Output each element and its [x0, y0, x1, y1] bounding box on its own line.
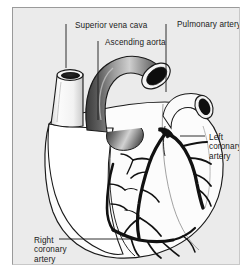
anatomy-figure: Superior vena cava Ascending aorta Pulmo… — [0, 0, 251, 276]
label-ascending-aorta: Ascending aorta — [105, 38, 166, 47]
label-left-coronary-artery: Left coronary artery — [209, 133, 240, 161]
svc-lumen — [61, 72, 80, 79]
superior-vena-cava — [51, 70, 83, 127]
label-pulmonary-artery: Pulmonary artery — [177, 20, 240, 29]
label-right-coronary-artery: Right coronary artery — [34, 236, 82, 264]
label-superior-vena-cava: Superior vena cava — [75, 21, 147, 30]
svc-wall — [51, 74, 83, 127]
diagram-panel: Superior vena cava Ascending aorta Pulmo… — [12, 7, 240, 265]
